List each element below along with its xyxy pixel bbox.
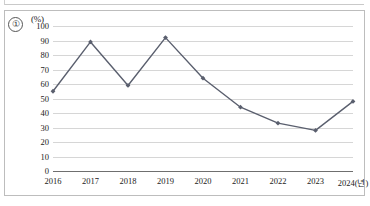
x-axis-line (53, 171, 353, 172)
y-axis-tick-label: 70 (9, 65, 49, 75)
y-axis-tick-label: 30 (9, 123, 49, 133)
plot-area: 0102030405060708090100 20162017201820192… (53, 26, 353, 171)
x-axis-tick-label: 2017 (82, 176, 99, 186)
x-axis-tick-label: 2020 (195, 176, 212, 186)
y-axis-tick-label: 90 (9, 36, 49, 46)
y-axis-tick-label: 100 (9, 21, 49, 31)
y-axis-tick-label: 20 (9, 137, 49, 147)
y-axis-tick-label: 50 (9, 94, 49, 104)
x-axis-tick-label: 2024(년) (338, 176, 369, 188)
page-top-rule (4, 4, 364, 5)
y-axis-tick-label: 0 (9, 166, 49, 176)
y-axis-tick-label: 40 (9, 108, 49, 118)
x-axis-tick-label: 2019 (157, 176, 174, 186)
x-axis-tick-label: 2018 (120, 176, 137, 186)
x-axis-tick-label: 2023 (307, 176, 324, 186)
x-axis-tick-label: 2022 (270, 176, 287, 186)
data-point-marker (276, 121, 281, 126)
series-line (53, 38, 353, 131)
x-axis-tick-label: 2016 (45, 176, 62, 186)
data-series-line (53, 26, 353, 171)
y-axis-tick-label: 10 (9, 152, 49, 162)
y-axis-tick-label: 60 (9, 79, 49, 89)
page-top-rule-tick (4, 0, 5, 5)
y-axis-tick-label: 80 (9, 50, 49, 60)
x-axis-tick-label: 2021 (232, 176, 249, 186)
chart-figure: ① (%) 0102030405060708090100 20162017201… (0, 0, 370, 206)
